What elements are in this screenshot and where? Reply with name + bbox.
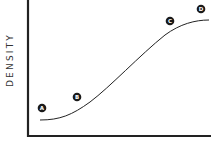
marker-b: B — [73, 93, 82, 102]
marker-b-label: B — [75, 94, 79, 100]
marker-a-label: A — [40, 105, 45, 111]
marker-d-label: D — [199, 6, 204, 12]
marker-c-label: C — [168, 18, 172, 24]
marker-a: A — [38, 104, 47, 113]
y-axis-label-text: DENSITY — [5, 33, 15, 87]
density-curve — [40, 20, 209, 120]
sigmoid-diagram: A B C D — [0, 0, 218, 151]
y-axis-label: DENSITY — [3, 25, 17, 95]
marker-d: D — [197, 5, 206, 14]
marker-c: C — [166, 17, 175, 26]
